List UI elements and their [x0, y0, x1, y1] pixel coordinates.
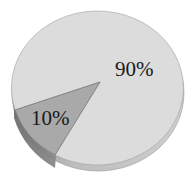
label-10-percent: 10% [31, 106, 70, 130]
label-90-percent: 90% [115, 57, 154, 81]
pie-chart: 90% 10% [0, 0, 189, 185]
